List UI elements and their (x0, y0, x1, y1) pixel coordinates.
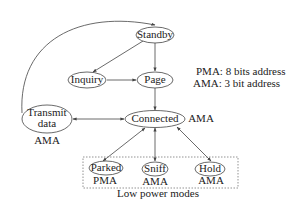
node-hold: Hold AMA (195, 162, 225, 186)
edge-connected-parked (103, 128, 145, 161)
legend-ama: AMA: 3 bit address (193, 77, 280, 89)
node-transmit-label-line2: data (38, 117, 56, 129)
node-parked-label: Parked (91, 161, 122, 173)
edge-connected-hold (177, 127, 211, 161)
state-diagram: Standby Inquiry Page Connected AMA Trans… (0, 0, 302, 209)
node-hold-label: Hold (199, 162, 222, 174)
node-sniff-address: AMA (142, 175, 168, 187)
node-standby-label: Standby (137, 28, 174, 40)
node-parked-address: PMA (93, 174, 117, 186)
low-power-group-label: Low power modes (117, 187, 199, 199)
node-connected: Connected AMA (125, 111, 214, 128)
node-standby: Standby (136, 27, 174, 43)
node-connected-address: AMA (188, 112, 214, 124)
edge-standby-to-inquiry (93, 41, 143, 72)
edge-transmit-to-standby (22, 21, 155, 113)
node-page: Page (137, 72, 173, 88)
node-hold-address: AMA (198, 174, 224, 186)
node-parked: Parked PMA (89, 161, 123, 186)
node-transmit-address: AMA (34, 134, 60, 146)
node-sniff-label: Sniff (144, 162, 166, 174)
node-inquiry-label: Inquiry (71, 73, 104, 85)
node-sniff: Sniff AMA (142, 162, 168, 187)
legend-pma: PMA: 8 bits address (196, 65, 286, 77)
node-inquiry: Inquiry (68, 72, 106, 88)
node-connected-label: Connected (131, 112, 179, 124)
node-transmit-data: Transmit data AMA (22, 105, 72, 146)
node-page-label: Page (144, 73, 166, 85)
